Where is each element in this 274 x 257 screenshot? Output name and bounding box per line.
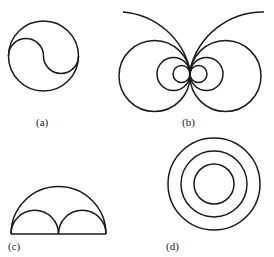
panel-c-right-small-semicircle — [59, 210, 107, 234]
panel-b-large-right-circle — [190, 41, 261, 112]
panel-b-small-right-circle — [190, 66, 207, 83]
panel-d-middle-circle — [181, 151, 247, 217]
panel-b-label: (b) — [182, 117, 195, 128]
panel-d-label: (d) — [166, 241, 179, 252]
panel-d-inner-circle — [194, 164, 234, 204]
panel-b-drawing — [119, 12, 264, 112]
panel-c-left-small-semicircle — [11, 210, 59, 234]
panel-d-outer-circle — [168, 138, 260, 230]
panel-c-large-semicircle — [11, 187, 106, 235]
panel-a-s-curve — [9, 39, 79, 74]
panel-a-drawing — [9, 21, 79, 91]
panel-a-label: (a) — [36, 117, 48, 128]
panel-c-label: (c) — [8, 241, 20, 252]
panel-b-small-left-circle — [173, 66, 190, 83]
panel-b-large-left-circle — [119, 41, 190, 112]
panel-c-drawing — [11, 187, 106, 235]
panel-d-drawing — [168, 138, 260, 230]
figure-canvas — [0, 0, 274, 257]
